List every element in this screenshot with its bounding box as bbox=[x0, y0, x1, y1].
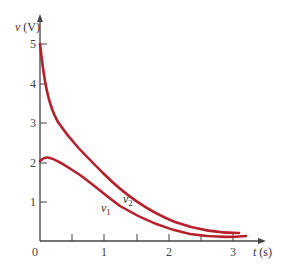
origin-label: 0 bbox=[32, 245, 38, 259]
series-v2-curve bbox=[40, 44, 239, 233]
y-tick-label-1: 1 bbox=[30, 195, 36, 209]
chart: 1 2 3 4 5 0 1 2 3 v(V) t(s) v2 v1 bbox=[0, 0, 301, 265]
y-tick-label-4: 4 bbox=[30, 77, 36, 91]
x-axis-arrow-icon bbox=[258, 238, 266, 244]
y-tick-label-2: 2 bbox=[30, 156, 36, 170]
y-tick-label-3: 3 bbox=[30, 116, 36, 130]
y-axis-title: v(V) bbox=[15, 20, 40, 34]
x-tick-label-3: 3 bbox=[230, 245, 236, 259]
x-tick-label-1: 1 bbox=[101, 245, 107, 259]
v1-label: v1 bbox=[101, 201, 111, 217]
y-tick-label-5: 5 bbox=[30, 37, 36, 51]
series-v1-curve bbox=[40, 158, 246, 237]
x-axis-title: t(s) bbox=[253, 245, 272, 259]
x-tick-label-2: 2 bbox=[166, 245, 172, 259]
v2-label: v2 bbox=[123, 192, 133, 208]
